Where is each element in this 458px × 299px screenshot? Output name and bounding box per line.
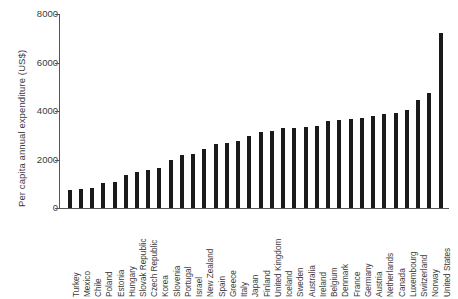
x-axis-tick-label: Slovenia — [174, 266, 182, 297]
x-axis-tick-label: United Kingdom — [275, 239, 283, 297]
x-axis-tick-label: Austria — [376, 272, 384, 297]
x-axis-tick-label: Turkey — [73, 272, 81, 297]
x-axis-tick-label: Italy — [241, 282, 249, 297]
x-axis-tick-label: Luxembourg — [410, 251, 418, 297]
bar — [90, 188, 94, 208]
bar — [169, 160, 173, 208]
plot-area — [60, 14, 449, 208]
x-axis-tick-label: Norway — [432, 269, 440, 297]
x-axis-tick-label: Portugal — [185, 267, 193, 298]
bar — [326, 121, 330, 208]
x-axis-tick-label: Finland — [264, 270, 272, 297]
x-axis-tick-label: Sweden — [297, 267, 305, 297]
x-axis-tick-labels: TurkeyMexicoChilePolandEstoniaHungarySlo… — [60, 211, 449, 299]
y-axis-tick-label: 2000 — [22, 155, 58, 165]
x-axis-tick-label: Chile — [95, 278, 103, 297]
bar — [416, 100, 420, 208]
x-axis-line — [59, 208, 449, 209]
bar — [236, 141, 240, 208]
bar — [68, 190, 72, 208]
y-axis-tick-label: 0 — [22, 203, 58, 213]
bar — [247, 136, 251, 209]
bar — [281, 128, 285, 209]
bar — [259, 132, 263, 208]
x-axis-tick-label: Greece — [230, 270, 238, 297]
x-axis-tick-label: Czech Republic — [151, 240, 159, 297]
y-axis-tick-label: 8000 — [22, 9, 58, 19]
x-axis-tick-label: United States — [444, 248, 452, 297]
bar — [304, 127, 308, 208]
x-axis-tick-label: Belgium — [331, 267, 339, 297]
bar — [405, 110, 409, 208]
x-axis-tick-label: Netherlands — [387, 253, 395, 297]
bar — [113, 182, 117, 208]
y-axis-tick-mark — [55, 208, 60, 209]
bar — [394, 113, 398, 208]
x-axis-tick-label: Denmark — [342, 264, 350, 297]
bar — [427, 93, 431, 208]
bar — [124, 175, 128, 208]
x-axis-tick-label: Hungary — [129, 266, 137, 297]
bar — [360, 118, 364, 208]
y-axis-label-container: Per capita annual expenditure (US$) — [0, 0, 20, 215]
bar — [135, 172, 139, 208]
x-axis-tick-label: Iceland — [286, 271, 294, 297]
x-axis-tick-label: Estonia — [118, 270, 126, 297]
x-axis-tick-label: Japan — [252, 275, 260, 297]
bar — [101, 183, 105, 208]
x-axis-tick-label: Mexico — [84, 271, 92, 297]
bar — [191, 154, 195, 208]
bar — [439, 33, 443, 208]
bar — [225, 143, 229, 208]
bar — [79, 189, 83, 208]
bar — [157, 168, 161, 208]
bar — [202, 149, 206, 208]
bar — [315, 126, 319, 208]
bar — [180, 155, 184, 208]
x-axis-tick-label: Slovak Republic — [140, 238, 148, 297]
x-axis-tick-label: Canada — [399, 268, 407, 297]
bar — [292, 128, 296, 209]
x-axis-tick-label: Poland — [106, 272, 114, 298]
bar — [349, 119, 353, 208]
x-axis-tick-label: Ireland — [320, 272, 328, 297]
bar-chart: Per capita annual expenditure (US$) 0200… — [0, 0, 458, 299]
bar — [371, 116, 375, 208]
x-axis-tick-label: Switzerland — [421, 255, 429, 297]
x-axis-tick-label: France — [354, 272, 362, 297]
x-axis-tick-label: Australia — [309, 265, 317, 297]
x-axis-tick-label: Korea — [162, 275, 170, 297]
x-axis-tick-label: New Zealand — [207, 249, 215, 297]
x-axis-tick-label: Spain — [219, 276, 227, 297]
bar — [146, 170, 150, 208]
bar — [337, 120, 341, 208]
bar — [214, 144, 218, 208]
y-axis-tick-label: 6000 — [22, 58, 58, 68]
y-axis-tick-label: 4000 — [22, 106, 58, 116]
bar — [270, 131, 274, 208]
y-axis-tick-labels: 02000400060008000 — [20, 0, 58, 215]
x-axis-tick-label: Germany — [365, 263, 373, 297]
bar — [382, 114, 386, 208]
x-axis-tick-label: Israel — [196, 277, 204, 297]
